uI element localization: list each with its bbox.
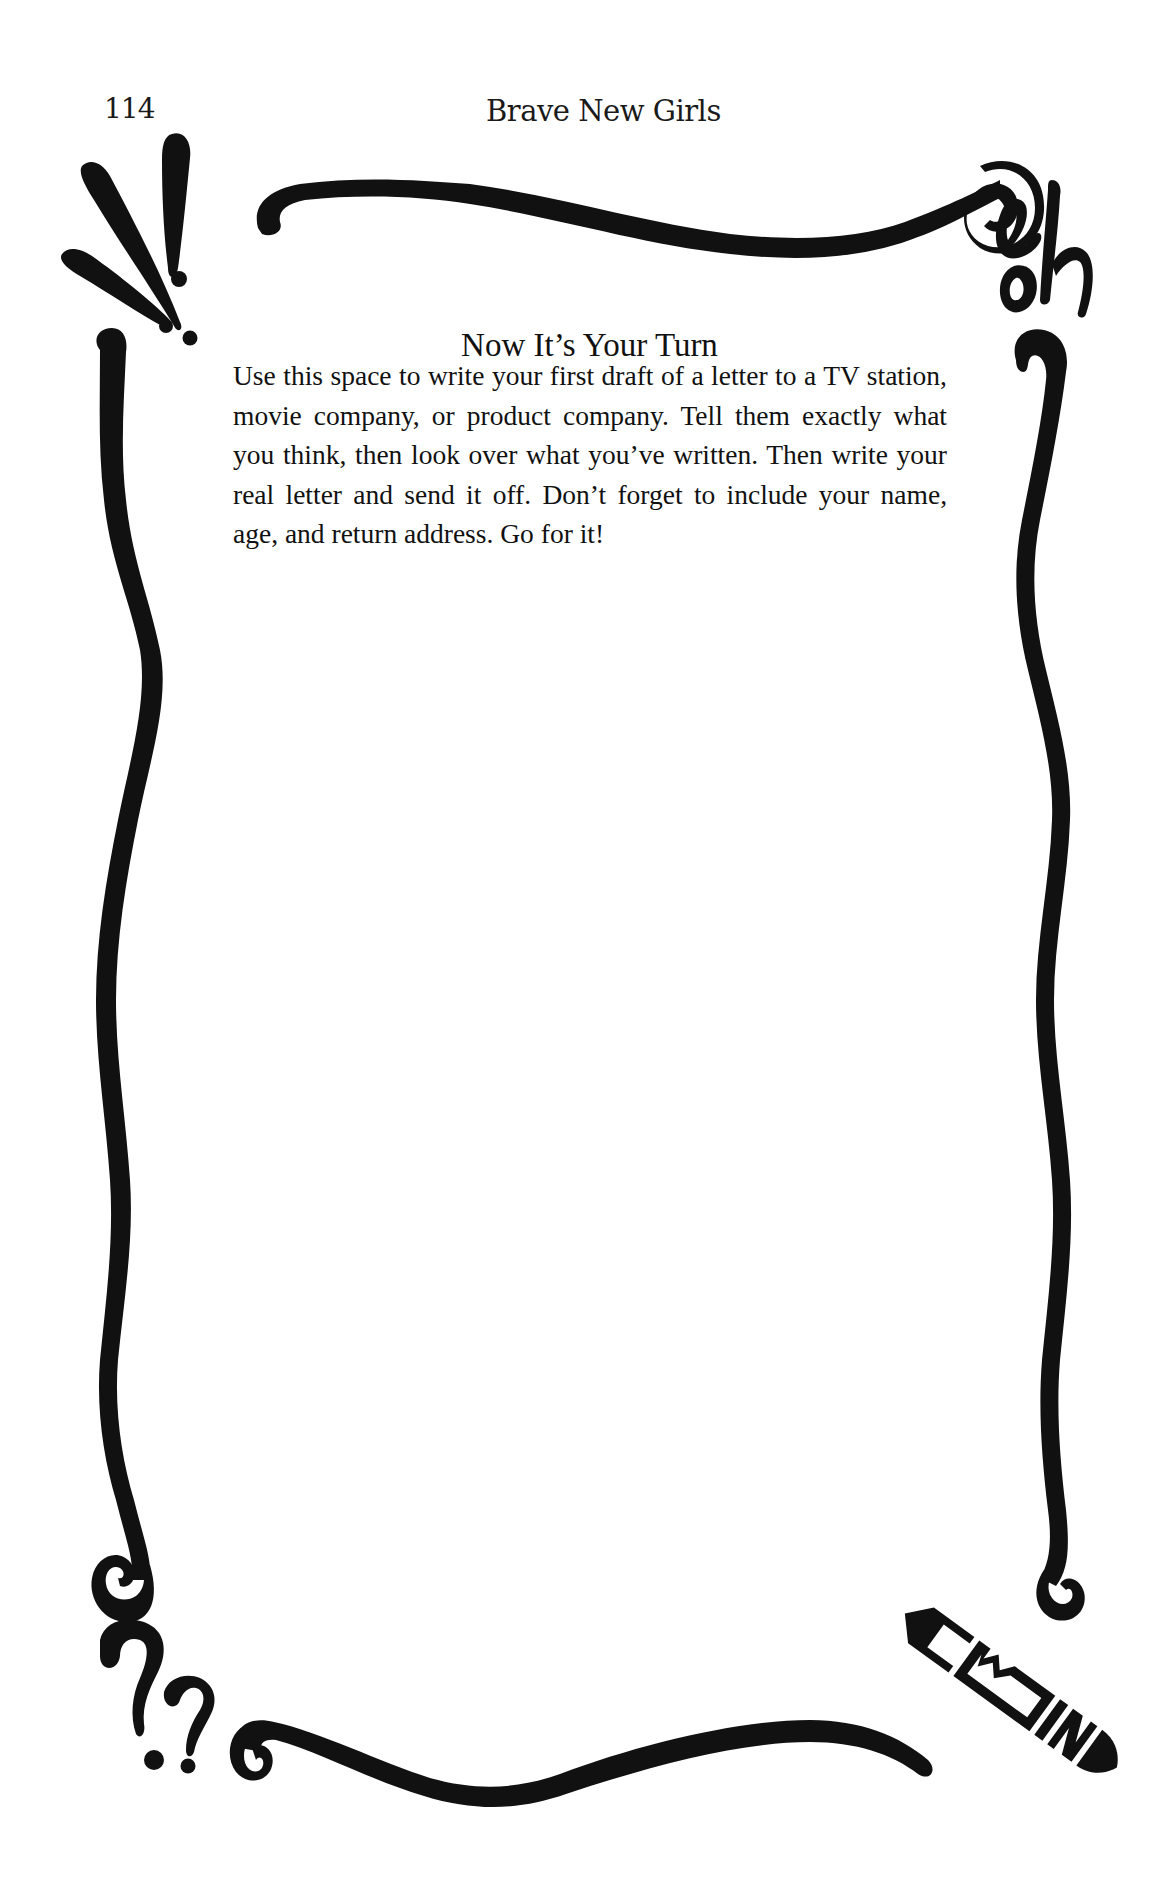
oh-lettering-icon [996,180,1093,318]
decorative-border [0,0,1169,1887]
pencil-end-icon [892,1596,1130,1786]
running-head: 114 Brave New Girls [0,92,1169,132]
question-marks-icon [100,1620,215,1774]
left-wavy-border [96,328,163,1580]
right-wavy-border [1015,329,1071,1586]
exclamation-marks-icon [61,133,198,345]
left-curl [91,1555,154,1622]
instructions-paragraph: Use this space to write your first draft… [233,356,947,554]
book-title: Brave New Girls [486,94,721,128]
page-number: 114 [104,92,154,125]
top-swirl-border [257,161,1044,258]
book-page: 114 Brave New Girls Now It’s Your Turn U… [0,0,1169,1887]
bottom-swirl-border [230,1720,933,1807]
